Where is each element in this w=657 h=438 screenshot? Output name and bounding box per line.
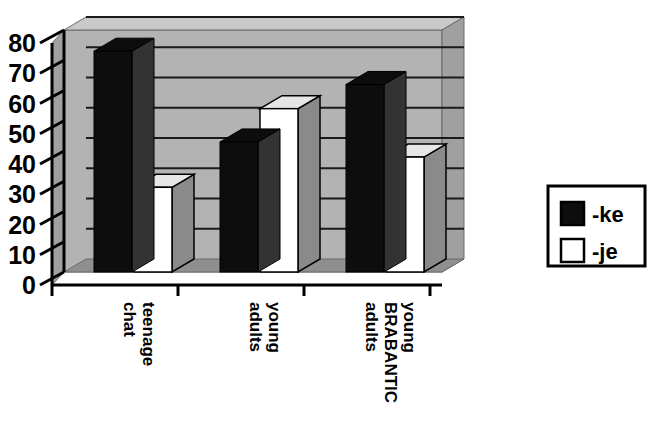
category-label-2-line-1: young (265, 302, 284, 353)
chart-legend: -ke-je (548, 186, 645, 266)
y-tick-label-0: 0 (22, 271, 36, 299)
x-axis-category-labels: teenagechatyoungadultsyoungBRABANTICadul… (120, 302, 420, 403)
y-tick-label-70: 70 (8, 59, 36, 87)
category-label-2-line-2: adults (246, 302, 265, 352)
y-tick-label-60: 60 (8, 90, 36, 118)
chart-canvas: 01020304050607080 teenagechatyoungadults… (0, 0, 657, 438)
bar-ke-1 (94, 38, 154, 272)
bar-ke-3 (346, 71, 406, 272)
y-tick-label-40: 40 (8, 150, 36, 178)
x-axis-ticks (52, 285, 430, 296)
category-label-1-line-2: chat (120, 302, 139, 337)
y-tick-label-10: 10 (8, 241, 36, 269)
plot-top-face (64, 17, 464, 30)
legend-swatch-black-ke (561, 202, 584, 225)
y-tick-label-30: 30 (8, 180, 36, 208)
category-label-3-line-1: young (400, 302, 419, 353)
legend-label-1: -ke (592, 202, 624, 227)
bar-ke-2 (220, 129, 280, 272)
legend-label-2: -je (592, 239, 618, 264)
y-tick-label-20: 20 (8, 211, 36, 239)
category-label-3-line-3: adults (362, 302, 381, 352)
bar-chart-figure: 01020304050607080 teenagechatyoungadults… (0, 0, 657, 438)
y-tick-label-80: 80 (8, 29, 36, 57)
category-label-1-line-1: teenage (139, 302, 158, 366)
category-label-3-line-2: BRABANTIC (381, 302, 400, 403)
legend-swatch-white-je (561, 239, 584, 262)
y-tick-label-50: 50 (8, 120, 36, 148)
